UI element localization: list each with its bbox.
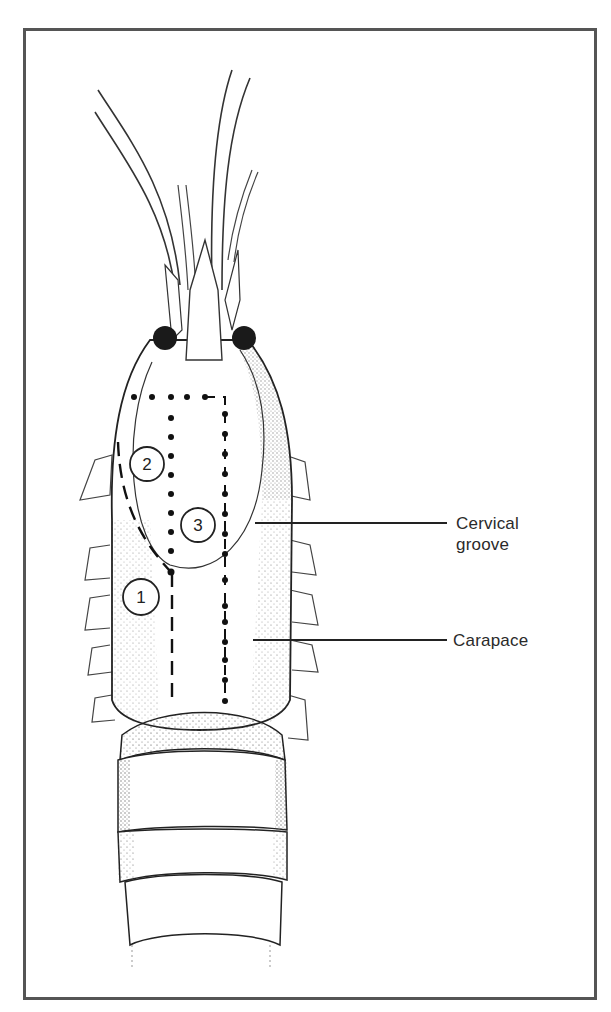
eye-left xyxy=(153,326,177,350)
label-cervical-groove: Cervical groove xyxy=(456,513,519,555)
label-carapace-text: Carapace xyxy=(453,630,528,651)
antennules xyxy=(178,170,258,290)
label-carapace: Carapace xyxy=(453,630,528,651)
region-number-1: 1 xyxy=(123,579,159,615)
crayfish-illustration: 2 3 1 xyxy=(0,0,611,1012)
abdomen xyxy=(118,713,287,946)
svg-text:2: 2 xyxy=(142,455,151,474)
label-cervical-groove-line1: Cervical xyxy=(456,513,519,534)
rostrum xyxy=(186,240,222,360)
legs-left xyxy=(80,455,115,722)
svg-text:1: 1 xyxy=(136,588,145,607)
eye-right xyxy=(232,326,256,350)
antennae xyxy=(95,70,250,290)
region-number-2: 2 xyxy=(130,447,164,481)
label-cervical-groove-line2: groove xyxy=(456,534,519,555)
region-number-3: 3 xyxy=(181,508,215,542)
svg-text:3: 3 xyxy=(193,516,202,535)
